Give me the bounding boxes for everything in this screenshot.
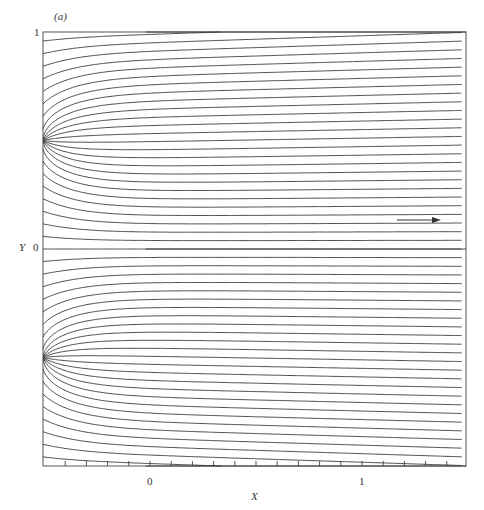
streamlines: [43, 32, 466, 466]
flow-direction-arrow: [397, 217, 441, 223]
x-tick-label-0: 0: [147, 475, 153, 487]
streamline-figure: [0, 0, 484, 510]
x-tick-label-1: 1: [359, 475, 365, 487]
y-tick-label-0: 0: [33, 241, 39, 253]
x-axis-label: X: [251, 490, 258, 502]
y-tick-label-1: 1: [34, 26, 40, 38]
panel-label: (a): [54, 10, 67, 22]
y-axis-label: Y: [19, 241, 25, 253]
